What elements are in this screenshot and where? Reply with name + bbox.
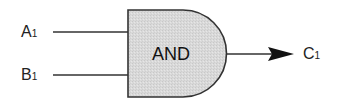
output-c-subscript: 1 [315,50,321,61]
output-label-c: C1 [303,46,320,62]
and-gate-diagram: A1 B1 AND C1 [0,0,344,109]
input-b-name: B [21,66,32,83]
input-b-subscript: 1 [32,71,38,82]
output-c-name: C [303,45,315,62]
gate-label: AND [152,45,190,63]
input-label-a: A1 [21,24,37,40]
input-label-b: B1 [21,67,37,83]
input-a-subscript: 1 [32,28,38,39]
input-a-name: A [21,23,32,40]
